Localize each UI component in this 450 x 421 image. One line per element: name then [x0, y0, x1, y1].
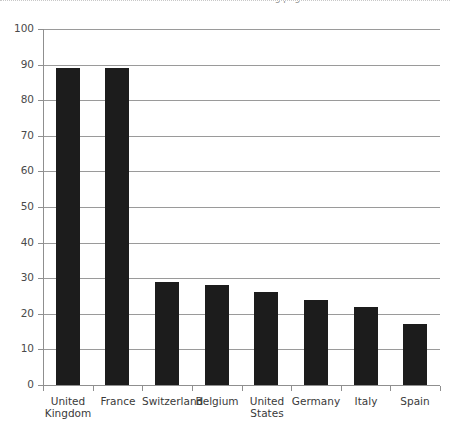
gridline — [43, 278, 440, 279]
x-axis-category-label: Switzerland — [142, 396, 192, 408]
gridline — [43, 243, 440, 244]
x-axis-category-line: Belgium — [192, 396, 242, 408]
gridline — [43, 207, 440, 208]
x-axis-category-line: States — [242, 408, 292, 420]
x-axis-tick — [440, 386, 441, 391]
bar — [254, 292, 278, 385]
x-axis-category-line: Kingdom — [43, 408, 93, 420]
x-axis-category-label: Spain — [390, 396, 440, 408]
bar — [105, 68, 129, 385]
y-axis-tick-label: 50 — [0, 201, 34, 212]
x-axis-tick — [291, 386, 292, 391]
y-axis-tick-label: 40 — [0, 237, 34, 248]
y-axis-tick-label: 30 — [0, 272, 34, 283]
gridline — [43, 29, 440, 30]
gridline — [43, 136, 440, 137]
bar-chart: 0102030405060708090100 UnitedKingdomFran… — [0, 7, 450, 421]
x-axis-category-label: Belgium — [192, 396, 242, 408]
x-axis-category-label: Italy — [341, 396, 391, 408]
gridline — [43, 100, 440, 101]
x-axis-tick — [242, 386, 243, 391]
y-axis-tick-label: 100 — [0, 23, 34, 34]
x-axis-category-line: Italy — [341, 396, 391, 408]
x-axis-category-line: Germany — [291, 396, 341, 408]
x-axis-tick — [341, 386, 342, 391]
x-axis-category-line: Spain — [390, 396, 440, 408]
x-axis-category-label: UnitedStates — [242, 396, 292, 419]
bar — [403, 324, 427, 385]
x-axis-category-label: Germany — [291, 396, 341, 408]
gridline — [43, 171, 440, 172]
x-axis-category-label: UnitedKingdom — [43, 396, 93, 419]
bar — [304, 300, 328, 385]
clipped-top-caption-text: Exhibit continued on following page — [0, 0, 450, 3]
x-axis-tick — [43, 386, 44, 391]
x-axis-category-line: France — [93, 396, 143, 408]
x-axis-category-label: France — [93, 396, 143, 408]
y-axis-tick-label: 60 — [0, 165, 34, 176]
x-axis-category-line: United — [43, 396, 93, 408]
x-axis-category-line: United — [242, 396, 292, 408]
clipped-top-caption: Exhibit continued on following page — [0, 0, 450, 7]
y-axis-tick-label: 70 — [0, 130, 34, 141]
x-axis-tick — [192, 386, 193, 391]
bar — [354, 307, 378, 385]
y-axis-tick-label: 0 — [0, 379, 34, 390]
gridline — [43, 314, 440, 315]
x-axis-tick — [93, 386, 94, 391]
gridline — [43, 65, 440, 66]
y-axis-tick-label: 80 — [0, 94, 34, 105]
y-axis-tick-label: 10 — [0, 343, 34, 354]
bar — [155, 282, 179, 385]
bar — [205, 285, 229, 385]
x-axis-category-line: Switzerland — [142, 396, 192, 408]
x-axis-tick — [390, 386, 391, 391]
y-axis-line — [43, 29, 44, 386]
gridline — [43, 349, 440, 350]
y-axis-tick-label: 90 — [0, 59, 34, 70]
bar — [56, 68, 80, 385]
x-axis-tick — [142, 386, 143, 391]
y-axis-tick-label: 20 — [0, 308, 34, 319]
